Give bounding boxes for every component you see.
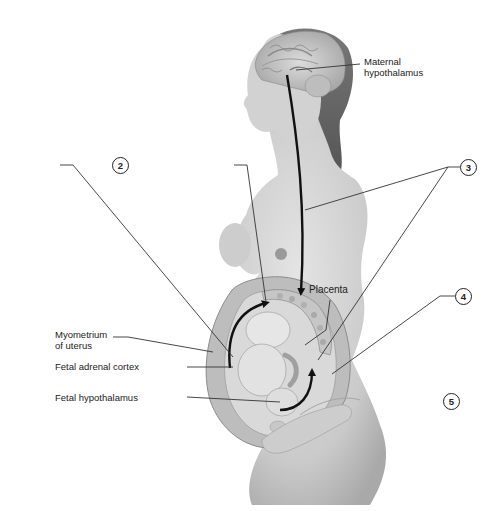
label-fetal-hypothalamus: Fetal hypothalamus xyxy=(55,392,138,403)
label-maternal-hypothalamus: Maternal hypothalamus xyxy=(364,56,444,78)
label-myometrium: Myometrium of uterus xyxy=(55,329,125,351)
label-maternal-hypothalamus-line1: Maternal xyxy=(364,56,401,67)
callout-2: 2 xyxy=(112,157,129,174)
label-myometrium-line1: Myometrium xyxy=(55,329,107,340)
label-maternal-hypothalamus-line2: hypothalamus xyxy=(364,67,423,78)
diagram-stage: Maternal hypothalamus Placenta Myometriu… xyxy=(0,0,490,511)
callout-5: 5 xyxy=(443,393,460,410)
label-fetal-adrenal-cortex: Fetal adrenal cortex xyxy=(55,361,139,372)
callout-4: 4 xyxy=(455,288,472,305)
callout-3: 3 xyxy=(460,159,477,176)
label-myometrium-line2: of uterus xyxy=(55,340,92,351)
label-placenta: Placenta xyxy=(309,284,348,295)
